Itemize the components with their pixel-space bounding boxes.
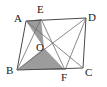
vertex-label-a: A bbox=[14, 12, 22, 24]
vertex-label-o: O bbox=[36, 41, 44, 53]
geometry-canvas: A E D O B F C bbox=[0, 0, 107, 87]
vertex-label-e: E bbox=[37, 3, 44, 15]
vertex-label-d: D bbox=[88, 11, 96, 23]
geometry-figure: A E D O B F C bbox=[0, 0, 107, 87]
vertex-label-f: F bbox=[61, 71, 67, 83]
vertex-label-b: B bbox=[6, 64, 13, 76]
vertex-label-c: C bbox=[85, 66, 92, 78]
